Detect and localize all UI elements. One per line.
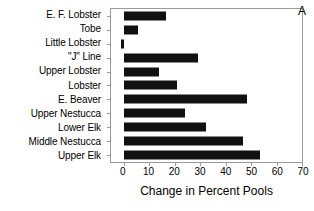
bars-container <box>111 9 302 162</box>
y-axis-tick-label: Lobster <box>0 78 106 92</box>
bar-row <box>111 23 302 37</box>
x-axis-title: Change in Percent Pools <box>110 184 303 198</box>
y-axis-tick-mark <box>107 155 111 156</box>
y-axis-tick-label: Upper Lobster <box>0 64 106 78</box>
y-axis-tick-label: Middle Nestucca <box>0 135 106 149</box>
y-axis-tick-mark <box>107 127 111 128</box>
y-axis-tick-label: "J" Line <box>0 50 106 64</box>
bar <box>124 95 248 104</box>
bar <box>124 109 185 118</box>
bar <box>124 137 244 146</box>
x-axis-tick-label: 60 <box>272 167 283 177</box>
panel-label: A <box>298 5 306 17</box>
y-axis-tick-label: E. Beaver <box>0 93 106 107</box>
x-axis-tick-label: 70 <box>297 167 308 177</box>
y-axis-tick-mark <box>107 72 111 73</box>
bar-row <box>111 134 302 148</box>
y-axis-tick-label: Tobe <box>0 22 106 36</box>
x-axis-tick-label: 0 <box>120 167 126 177</box>
bar-chart-figure: E. F. LobsterTobeLittle Lobster"J" LineU… <box>0 0 314 211</box>
bar <box>124 11 166 20</box>
bar <box>121 39 124 48</box>
bar <box>124 67 160 76</box>
y-axis-tick-label: Upper Nestucca <box>0 107 106 121</box>
bar-row <box>111 120 302 134</box>
bar <box>124 81 177 90</box>
plot-area <box>110 8 303 163</box>
y-axis-tick-mark <box>107 16 111 17</box>
y-axis-tick-mark <box>107 99 111 100</box>
x-axis-tick-label: 20 <box>169 167 180 177</box>
y-axis-tick-mark <box>107 44 111 45</box>
bar <box>124 151 260 160</box>
y-axis-tick-mark <box>107 58 111 59</box>
bar-row <box>111 148 302 162</box>
y-axis-tick-label: Lower Elk <box>0 121 106 135</box>
y-axis-tick-label: E. F. Lobster <box>0 8 106 22</box>
y-axis-category-labels: E. F. LobsterTobeLittle Lobster"J" LineU… <box>0 8 106 163</box>
y-axis-tick-mark <box>107 30 111 31</box>
bar-row <box>111 92 302 106</box>
y-axis-tick-mark <box>107 141 111 142</box>
bar <box>124 25 138 34</box>
bar-row <box>111 106 302 120</box>
x-axis-tick-label: 10 <box>143 167 154 177</box>
bar-row <box>111 51 302 65</box>
y-axis-tick-mark <box>107 85 111 86</box>
x-axis-tick-label: 40 <box>220 167 231 177</box>
y-axis-tick-label: Little Lobster <box>0 36 106 50</box>
bar-row <box>111 65 302 79</box>
y-axis-tick-label: Upper Elk <box>0 149 106 163</box>
x-axis-tick-label: 30 <box>195 167 206 177</box>
y-axis-tick-mark <box>107 113 111 114</box>
bar <box>124 123 207 132</box>
x-axis-tick-label: 50 <box>246 167 257 177</box>
bar-row <box>111 79 302 93</box>
bar <box>124 53 198 62</box>
bar-row <box>111 9 302 23</box>
bar-row <box>111 37 302 51</box>
